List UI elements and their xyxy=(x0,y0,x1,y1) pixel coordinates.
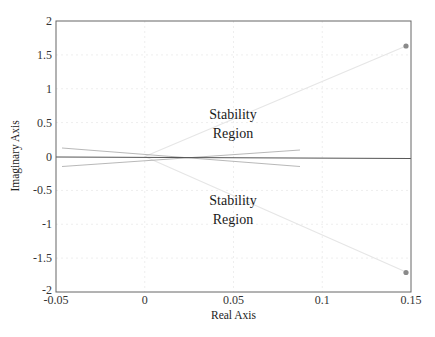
y-tick-labels: 2 1.5 1 0.5 0 -0.5 -1 -1.5 -2 xyxy=(33,14,52,297)
y-tick-label: 2 xyxy=(46,14,52,28)
x-tick-label: 0.05 xyxy=(223,293,244,307)
x-tick-label: -0.05 xyxy=(44,293,69,307)
annotation-text: Region xyxy=(213,212,253,227)
x-axis-label: Real Axis xyxy=(211,309,257,321)
annotation-text: Stability xyxy=(209,107,256,122)
x-tick-label: 0.15 xyxy=(401,293,422,307)
y-tick-label: -0.5 xyxy=(33,183,52,197)
y-axis-label: Imaginary Axis xyxy=(9,120,22,192)
pole-marker-lower xyxy=(403,270,408,275)
pole-marker-upper xyxy=(403,43,408,48)
x-tick-label: 0.1 xyxy=(315,293,330,307)
x-tick-label: 0 xyxy=(142,293,148,307)
y-tick-label: 0 xyxy=(46,150,52,164)
y-tick-label: 1.5 xyxy=(37,48,52,62)
y-tick-label: 1 xyxy=(46,82,52,96)
y-tick-label: -1 xyxy=(42,217,52,231)
y-tick-label: 0.5 xyxy=(37,116,52,130)
annotation-text: Region xyxy=(213,126,253,141)
y-tick-label: -1.5 xyxy=(33,251,52,265)
annotation-text: Stability xyxy=(209,193,256,208)
root-locus-chart: 2 1.5 1 0.5 0 -0.5 -1 -1.5 -2 -0.05 0 0.… xyxy=(0,0,435,337)
x-tick-labels: -0.05 0 0.05 0.1 0.15 xyxy=(44,293,422,307)
